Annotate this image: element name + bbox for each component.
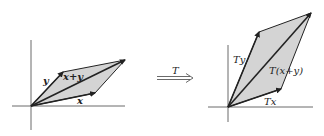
left-panel: x y x+y: [12, 40, 125, 130]
label-x: x: [76, 95, 84, 106]
label-y: y: [42, 75, 50, 86]
linear-transform-diagram: x y x+y T Tx Ty T(x+y): [0, 0, 324, 136]
transform-arrow: T: [157, 65, 193, 83]
label-t: T: [172, 65, 180, 76]
label-tx: Tx: [264, 96, 277, 107]
right-panel: Tx Ty T(x+y): [208, 13, 313, 122]
label-sum: x+y: [62, 71, 84, 82]
label-tsum: T(x+y): [269, 65, 303, 76]
label-ty: Ty: [233, 54, 246, 65]
